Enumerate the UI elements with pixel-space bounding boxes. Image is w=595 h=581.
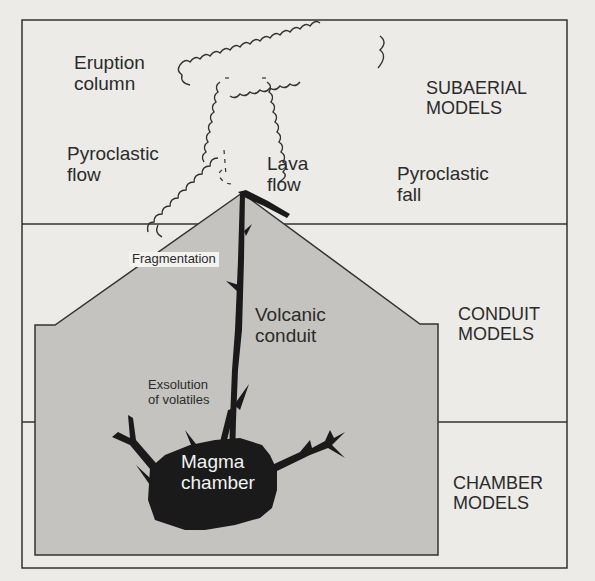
volcanic-conduit-label-line2: conduit [255, 325, 326, 346]
chamber-models-label-line1: CHAMBER [453, 473, 543, 493]
pyroclastic-flow-label-line1: Pyroclastic [67, 143, 159, 164]
eruption-column-label-line1: Eruption [74, 52, 145, 73]
subaerial-models-label-line1: SUBAERIAL [426, 78, 527, 98]
lava-flow-label-line2: flow [267, 174, 308, 195]
magma-chamber-label-line2: chamber [181, 472, 255, 493]
volcanic-conduit-label: Volcanic conduit [255, 304, 326, 347]
eruption-column-label-line2: column [74, 73, 145, 94]
exsolution-label-line2: of volatiles [148, 393, 209, 408]
volcanic-conduit-label-line1: Volcanic [255, 304, 326, 325]
eruption-column-dashes [219, 78, 268, 184]
fragmentation-label: Fragmentation [129, 252, 219, 267]
conduit-models-label-line1: CONDUIT [458, 304, 540, 324]
exsolution-label-line1: Exsolution [148, 378, 209, 393]
conduit-models-label-line2: MODELS [458, 324, 540, 344]
pyroclastic-flow-label: Pyroclastic flow [67, 143, 159, 186]
lava-flow-label: Lava flow [267, 153, 308, 196]
magma-chamber-label: Magma chamber [181, 451, 255, 494]
lava-flow-label-line1: Lava [267, 153, 308, 174]
eruption-column-label: Eruption column [74, 52, 145, 95]
pyroclastic-fall-label-line1: Pyroclastic [397, 163, 489, 184]
pyroclastic-fall-label-line2: fall [397, 184, 489, 205]
pyroclastic-fall-label: Pyroclastic fall [397, 163, 489, 206]
subaerial-models-label-line2: MODELS [426, 98, 527, 118]
chamber-models-label: CHAMBER MODELS [453, 473, 543, 513]
chamber-models-label-line2: MODELS [453, 493, 543, 513]
conduit-models-label: CONDUIT MODELS [458, 304, 540, 344]
subaerial-models-label: SUBAERIAL MODELS [426, 78, 527, 118]
magma-chamber-label-line1: Magma [181, 451, 255, 472]
exsolution-label: Exsolution of volatiles [148, 378, 209, 407]
pyroclastic-flow-label-line2: flow [67, 164, 159, 185]
